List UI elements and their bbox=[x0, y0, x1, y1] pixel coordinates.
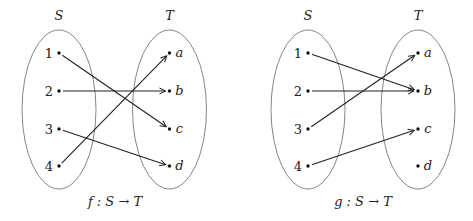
diagram-1-domain-point bbox=[57, 51, 60, 54]
diagram-1-domain-element: 4 bbox=[45, 159, 53, 174]
diagram-2-codomain-point bbox=[416, 127, 419, 130]
diagram-1-codomain-point bbox=[168, 127, 171, 130]
diagram-1-domain-point bbox=[57, 127, 60, 130]
diagram-1-codomain-point bbox=[168, 164, 171, 167]
diagram-1-codomain-element: b bbox=[175, 83, 183, 98]
diagram-1-codomain-element: a bbox=[176, 45, 184, 60]
diagram-1-domain-point bbox=[57, 89, 60, 92]
diagram-1-domain-element: 3 bbox=[45, 122, 53, 137]
diagram-2-codomain-point bbox=[416, 164, 419, 167]
diagram-2-domain-element: 3 bbox=[294, 122, 302, 137]
diagram-1-codomain-element: c bbox=[176, 121, 184, 136]
diagram-2-codomain-element: a bbox=[424, 45, 432, 60]
diagram-2-codomain-element: c bbox=[424, 121, 432, 136]
diagram-1-codomain-point bbox=[168, 89, 171, 92]
diagram-1-codomain-label: T bbox=[165, 8, 175, 23]
diagram-2-codomain-element: b bbox=[424, 83, 432, 98]
diagram-1-codomain-point bbox=[168, 51, 171, 54]
diagram-2-mapping-arrow-1-to-b bbox=[312, 54, 414, 89]
diagram-2-domain-point bbox=[306, 164, 309, 167]
diagram-1-domain-point bbox=[57, 164, 60, 167]
diagram-1-domain-element: 1 bbox=[45, 46, 53, 61]
diagram-2-domain-element: 1 bbox=[294, 46, 302, 61]
diagram-2-domain-label: S bbox=[304, 8, 313, 23]
diagram-1-mapping-arrow-3-to-d bbox=[63, 130, 166, 164]
diagram-2-domain-element: 2 bbox=[294, 84, 302, 99]
function-diagrams: ST1234abcdf : S → TST1234abcdg : S → T bbox=[0, 0, 473, 221]
diagram-2-domain-point bbox=[306, 51, 309, 54]
diagram-1-codomain-element: d bbox=[175, 158, 183, 173]
diagram-2-codomain-point bbox=[416, 89, 419, 92]
diagram-1-domain-element: 2 bbox=[45, 84, 53, 99]
diagram-2-domain-element: 4 bbox=[294, 159, 302, 174]
diagram-2-mapping-arrow-4-to-c bbox=[312, 130, 414, 164]
diagram-2-caption: g : S → T bbox=[334, 194, 393, 209]
diagram-1-caption: f : S → T bbox=[87, 194, 144, 209]
diagram-2-domain-point bbox=[306, 89, 309, 92]
diagram-1-domain-label: S bbox=[55, 8, 64, 23]
diagram-2-codomain-label: T bbox=[414, 8, 424, 23]
diagram-2-codomain-element: d bbox=[424, 158, 432, 173]
diagram-2-domain-point bbox=[306, 127, 309, 130]
diagram-2-codomain-point bbox=[416, 51, 419, 54]
